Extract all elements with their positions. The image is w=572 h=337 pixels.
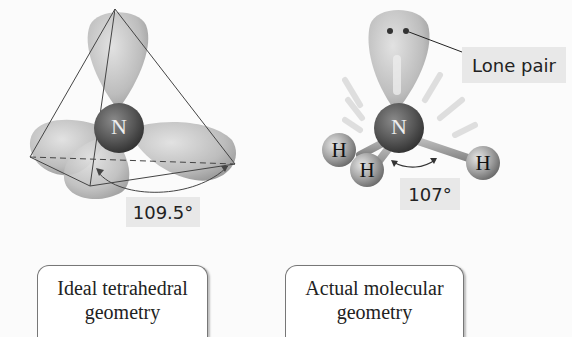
hydrogen-label: H <box>472 151 494 176</box>
caption-actual-line2: geometry <box>286 300 463 324</box>
bond-angle-label-actual: 107° <box>400 178 460 210</box>
bond-angle-label-ideal: 109.5° <box>126 197 200 227</box>
nitrogen-label-left: N <box>108 114 130 140</box>
nitrogen-label-right: N <box>388 114 410 140</box>
caption-actual-line1: Actual molecular <box>286 276 463 300</box>
caption-ideal-geometry: Ideal tetrahedral geometry <box>37 265 208 337</box>
hydrogen-label: H <box>356 158 378 183</box>
orbital-lobe-top <box>88 12 149 110</box>
caption-ideal-line1: Ideal tetrahedral <box>38 276 207 300</box>
caption-ideal-line2: geometry <box>38 300 207 324</box>
hydrogen-label: H <box>328 138 350 163</box>
electron-dot <box>403 28 409 34</box>
electron-dot <box>387 28 393 34</box>
caption-actual-geometry: Actual molecular geometry <box>285 265 464 337</box>
ideal-tetrahedral-model <box>30 9 236 199</box>
lone-pair-label: Lone pair <box>462 47 566 83</box>
